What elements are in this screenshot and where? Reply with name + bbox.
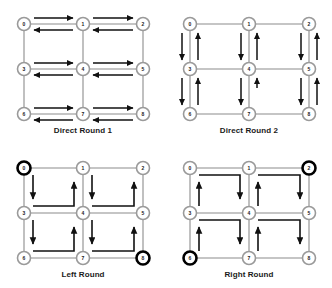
panel-caption-right-round: Right Round bbox=[166, 270, 332, 279]
node-8-label: 8 bbox=[142, 111, 145, 117]
panel-right-round-graphic: 0 1 2 3 4 5 6 7 8 bbox=[166, 144, 332, 288]
node-2-label: 2 bbox=[142, 165, 145, 171]
node-2-label: 2 bbox=[142, 21, 145, 27]
node-6-label: 6 bbox=[189, 255, 192, 261]
node-0-label: 0 bbox=[23, 21, 26, 27]
panel-left-round: 0 1 2 3 4 5 6 7 8 Left Round bbox=[0, 144, 166, 288]
panel-caption-direct-round-2: Direct Round 2 bbox=[166, 126, 332, 135]
panel-caption-left-round: Left Round bbox=[0, 270, 166, 279]
node-6-label: 6 bbox=[23, 255, 26, 261]
node-2-label: 2 bbox=[308, 21, 311, 27]
figure-root: 0 1 2 3 4 5 6 7 8 Direct Round 1 bbox=[0, 0, 332, 288]
node-6-label: 6 bbox=[23, 111, 26, 117]
node-4-label: 4 bbox=[82, 210, 85, 216]
node-0-label: 0 bbox=[23, 165, 26, 171]
node-7-label: 7 bbox=[248, 255, 251, 261]
node-3-label: 3 bbox=[189, 66, 192, 72]
node-2-label: 2 bbox=[308, 165, 311, 171]
node-4-label: 4 bbox=[248, 66, 251, 72]
node-0-label: 0 bbox=[189, 21, 192, 27]
node-1-label: 1 bbox=[82, 21, 85, 27]
node-4-label: 4 bbox=[248, 210, 251, 216]
panel-direct-round-2-graphic: 0 1 2 3 4 5 6 7 8 bbox=[166, 0, 332, 144]
node-1-label: 1 bbox=[248, 21, 251, 27]
panel-direct-round-2: 0 1 2 3 4 5 6 7 8 Direct Round 2 bbox=[166, 0, 332, 144]
node-5-label: 5 bbox=[142, 66, 145, 72]
panel-caption-direct-round-1: Direct Round 1 bbox=[0, 126, 166, 135]
node-7-label: 7 bbox=[82, 111, 85, 117]
panel-direct-round-1-graphic: 0 1 2 3 4 5 6 7 8 bbox=[0, 0, 166, 144]
node-5-label: 5 bbox=[308, 210, 311, 216]
node-5-label: 5 bbox=[142, 210, 145, 216]
node-3-label: 3 bbox=[23, 66, 26, 72]
node-1-label: 1 bbox=[82, 165, 85, 171]
node-8-label: 8 bbox=[142, 255, 145, 261]
node-3-label: 3 bbox=[23, 210, 26, 216]
node-5-label: 5 bbox=[308, 66, 311, 72]
node-7-label: 7 bbox=[248, 111, 251, 117]
node-0-label: 0 bbox=[189, 165, 192, 171]
panel-right-round: 0 1 2 3 4 5 6 7 8 Right Round bbox=[166, 144, 332, 288]
node-4-label: 4 bbox=[82, 66, 85, 72]
node-1-label: 1 bbox=[248, 165, 251, 171]
node-8-label: 8 bbox=[308, 255, 311, 261]
panel-left-round-graphic: 0 1 2 3 4 5 6 7 8 bbox=[0, 144, 166, 288]
node-3-label: 3 bbox=[189, 210, 192, 216]
node-6-label: 6 bbox=[189, 111, 192, 117]
panel-direct-round-1: 0 1 2 3 4 5 6 7 8 Direct Round 1 bbox=[0, 0, 166, 144]
node-8-label: 8 bbox=[308, 111, 311, 117]
node-7-label: 7 bbox=[82, 255, 85, 261]
